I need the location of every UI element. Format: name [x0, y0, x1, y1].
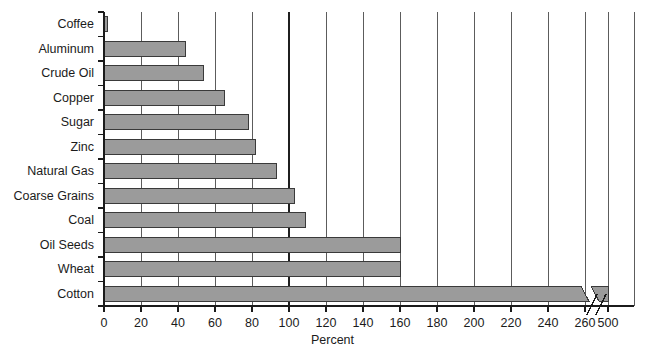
y-axis-category-label: Zinc	[0, 141, 94, 154]
x-axis-tick-label: 500	[583, 317, 633, 330]
y-axis-category-label: Aluminum	[0, 43, 94, 56]
y-axis-category-label: Coarse Grains	[0, 190, 94, 203]
chart-canvas	[0, 0, 665, 356]
bar-chart: CoffeeAluminumCrude OilCopperSugarZincNa…	[0, 0, 665, 356]
y-axis-category-label: Coffee	[0, 18, 94, 31]
y-axis-category-label: Sugar	[0, 116, 94, 129]
y-axis-category-label: Copper	[0, 92, 94, 105]
y-axis-category-label: Natural Gas	[0, 165, 94, 178]
x-axis-title: Percent	[0, 334, 665, 347]
y-axis-category-label: Coal	[0, 214, 94, 227]
y-axis-category-label: Cotton	[0, 288, 94, 301]
y-axis-category-label: Wheat	[0, 263, 94, 276]
y-axis-category-label: Oil Seeds	[0, 239, 94, 252]
y-axis-category-label: Crude Oil	[0, 67, 94, 80]
